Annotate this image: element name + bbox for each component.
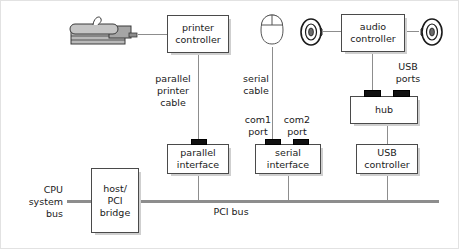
parallel-printer-cable-label: parallel printer cable xyxy=(153,73,193,109)
usb-controller-box: USB controller xyxy=(356,144,418,174)
host-pci-bridge-label-line3: bridge xyxy=(100,207,130,219)
com1-port-connector xyxy=(265,139,281,145)
speaker-right-icon xyxy=(413,15,445,47)
parallel-interface-label-line2: interface xyxy=(177,159,219,171)
parallel-printer-cable-wire xyxy=(198,53,199,142)
hub-label: hub xyxy=(375,104,393,116)
usb-controller-label-line2: controller xyxy=(364,159,409,171)
audio-controller-label-line1: audio xyxy=(360,21,386,33)
serial-cable-line1: serial xyxy=(241,73,271,85)
com2-line1: com2 xyxy=(283,114,311,126)
com1-line1: com1 xyxy=(244,114,272,126)
speaker-left-icon xyxy=(298,15,330,47)
printer-controller-label-line2: controller xyxy=(175,34,220,46)
hub-usb-port-2-connector xyxy=(393,90,410,97)
hub-usb-port-1-connector xyxy=(364,90,381,97)
hub-to-usb-controller-wire xyxy=(387,124,388,144)
serial-interface-box: serial interface xyxy=(255,144,321,174)
serial-interface-to-bus-wire xyxy=(288,174,289,202)
cpu-bus-line3: bus xyxy=(19,208,63,220)
printer-icon xyxy=(69,13,141,49)
mouse-icon xyxy=(259,14,285,48)
printer-controller-box: printer controller xyxy=(167,15,229,53)
pci-bus-line xyxy=(139,200,439,203)
usb-controller-to-bus-wire xyxy=(387,174,388,202)
parallel-interface-box: parallel interface xyxy=(167,144,229,174)
serial-cable-wire xyxy=(272,47,273,142)
com2-port-connector xyxy=(293,139,309,145)
com2-line2: port xyxy=(283,126,311,138)
audio-controller-label-line2: controller xyxy=(350,33,395,45)
usb-ports-line1: USB xyxy=(391,61,425,73)
serial-interface-label-line2: interface xyxy=(267,159,309,171)
host-pci-bridge-label-line1: host/ xyxy=(103,183,127,195)
cpu-system-bus-label: CPU system bus xyxy=(19,184,63,220)
hub-box: hub xyxy=(350,96,418,124)
usb-ports-label: USB ports xyxy=(391,61,425,85)
parallel-cable-line2: printer xyxy=(153,85,193,97)
serial-interface-label-line1: serial xyxy=(275,147,301,159)
serial-cable-label: serial cable xyxy=(241,73,271,97)
cpu-bus-line1: CPU xyxy=(19,184,63,196)
cpu-bus-line2: system xyxy=(19,196,63,208)
printer-controller-label-line1: printer xyxy=(182,22,214,34)
printer-to-controller-wire xyxy=(138,34,167,35)
pci-bus-label: PCI bus xyxy=(201,206,261,218)
audio-controller-box: audio controller xyxy=(341,14,405,52)
cpu-system-bus-line xyxy=(67,200,91,203)
parallel-interface-label-line1: parallel xyxy=(180,147,215,159)
usb-ports-line2: ports xyxy=(391,73,425,85)
com2-port-label: com2 port xyxy=(283,114,311,138)
parallel-cable-line3: cable xyxy=(153,97,193,109)
serial-cable-line2: cable xyxy=(241,85,271,97)
host-pci-bridge-label-line2: PCI xyxy=(107,195,122,207)
diagram-canvas: printer controller parallel printer cabl… xyxy=(0,0,459,249)
audio-to-hub-usb-wire xyxy=(372,52,373,92)
parallel-cable-line1: parallel xyxy=(153,73,193,85)
parallel-interface-to-bus-wire xyxy=(198,174,199,202)
usb-controller-label-line1: USB xyxy=(377,147,397,159)
com1-line2: port xyxy=(244,126,272,138)
com1-port-label: com1 port xyxy=(244,114,272,138)
host-pci-bridge-box: host/ PCI bridge xyxy=(91,168,139,233)
parallel-port-connector xyxy=(191,139,207,145)
